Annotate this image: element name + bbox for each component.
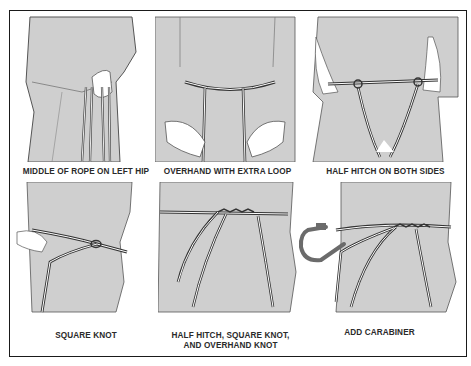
illustration-carabiner bbox=[296, 182, 463, 317]
caption-panel-5-line-1: HALF HITCH, SQUARE KNOT, bbox=[158, 331, 303, 341]
carabiner-icon bbox=[301, 227, 344, 260]
panel-half-hitch-both-sides: HALF HITCH ON BOTH SIDES bbox=[308, 12, 463, 182]
illustration-overhand-loop bbox=[155, 12, 300, 162]
caption-panel-6: ADD CARABINER bbox=[296, 328, 463, 338]
panel-half-hitch-square-overhand: HALF HITCH, SQUARE KNOT, AND OVERHAND KN… bbox=[158, 182, 303, 352]
panel-middle-of-rope: MIDDLE OF ROPE ON LEFT HIP bbox=[12, 12, 160, 182]
panel-overhand-extra-loop: OVERHAND WITH EXTRA LOOP bbox=[155, 12, 300, 182]
illustration-combined-knots bbox=[158, 182, 303, 317]
caption-panel-5-line-2: AND OVERHAND KNOT bbox=[158, 341, 303, 351]
panel-add-carabiner: ADD CARABINER bbox=[296, 182, 463, 352]
illustration-half-hitch bbox=[308, 12, 463, 162]
caption-panel-3: HALF HITCH ON BOTH SIDES bbox=[308, 167, 463, 177]
illustration-square-knot bbox=[12, 182, 160, 322]
caption-panel-2: OVERHAND WITH EXTRA LOOP bbox=[155, 167, 300, 177]
caption-panel-1: MIDDLE OF ROPE ON LEFT HIP bbox=[12, 167, 160, 177]
caption-panel-4: SQUARE KNOT bbox=[12, 331, 160, 341]
illustration-rope-on-hip bbox=[12, 12, 160, 162]
panel-square-knot: SQUARE KNOT bbox=[12, 182, 160, 352]
